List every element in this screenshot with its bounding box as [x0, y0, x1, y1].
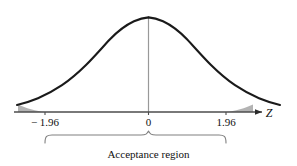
- normal-curve-figure: − 1.96 0 1.96 Z Acceptance region: [0, 0, 297, 166]
- acceptance-region-brace: [45, 131, 226, 143]
- acceptance-region-caption: Acceptance region: [107, 148, 190, 160]
- tick-label-right-critical: 1.96: [216, 116, 236, 128]
- figure-canvas: − 1.96 0 1.96 Z Acceptance region: [0, 0, 297, 166]
- z-axis-arrowhead: [255, 109, 262, 115]
- tick-label-center: 0: [146, 116, 152, 128]
- left-rejection-tail-shading: [18, 104, 45, 112]
- tick-label-left-critical: − 1.96: [31, 116, 60, 128]
- z-axis-label: Z: [266, 106, 273, 120]
- right-rejection-tail-shading: [226, 104, 253, 112]
